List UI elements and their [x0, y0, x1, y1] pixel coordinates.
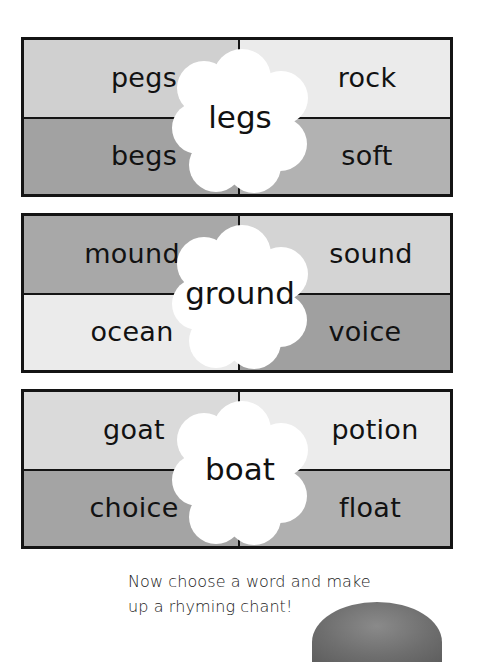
word-mound: mound [84, 237, 180, 268]
rhyme-box-ground: mound sound ocean voice ground [21, 213, 453, 373]
word-soft: soft [341, 139, 392, 170]
word-goat: goat [103, 413, 165, 444]
word-begs: begs [111, 139, 177, 170]
flower-center: ground [172, 224, 308, 370]
word-ocean: ocean [90, 315, 173, 346]
rhyme-box-boat: goat potion choice float boat [21, 389, 453, 549]
flower-center: legs [172, 48, 308, 194]
rhyme-box-legs: pegs rock begs soft legs [21, 37, 453, 197]
word-voice: voice [329, 315, 402, 346]
word-choice: choice [89, 491, 178, 522]
word-pegs: pegs [111, 61, 177, 92]
center-word-ground: ground [172, 224, 308, 370]
flower-center: boat [172, 400, 308, 546]
word-potion: potion [331, 413, 418, 444]
word-sound: sound [329, 237, 412, 268]
word-float: float [339, 491, 401, 522]
center-word-boat: boat [172, 400, 308, 546]
instruction-line-1: Now choose a word and make [128, 569, 388, 594]
center-word-legs: legs [172, 48, 308, 194]
word-rock: rock [338, 61, 397, 92]
